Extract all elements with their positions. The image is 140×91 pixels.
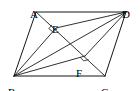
segment-BF [14,56,85,76]
vertex-label-D: D [122,8,130,20]
geometry-figure: A B C D E F [0,0,140,91]
side-AB [14,12,36,76]
vertex-label-C: C [101,86,108,91]
vertex-label-E: E [52,23,59,35]
diagonal-BD [14,12,126,76]
vertex-label-B: B [8,86,15,91]
figure-canvas: A B C D E F [0,0,140,91]
side-CD [105,12,126,76]
segment-BE [14,28,56,76]
vertex-label-A: A [30,8,38,20]
segment-ED [56,12,126,28]
segment-FD [85,12,126,56]
diagonals [14,12,126,76]
vertex-label-F: F [76,67,82,79]
